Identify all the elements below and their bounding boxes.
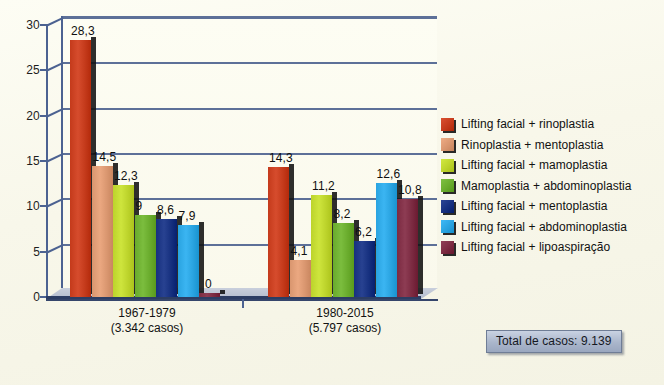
category-name: 1980-2015	[275, 306, 415, 321]
bar	[354, 241, 375, 297]
bar	[135, 215, 156, 297]
category-cases: (3.342 casos)	[77, 321, 217, 336]
category-cases: (5.797 casos)	[275, 321, 415, 336]
legend-item: Lifting facial + lipoaspiração	[441, 237, 663, 258]
legend-item: Mamoplastia + abdominoplastia	[441, 176, 663, 197]
bar-face	[70, 40, 91, 297]
bar-value-label: 0	[205, 277, 212, 291]
bar-face	[376, 183, 397, 297]
bar	[92, 166, 113, 297]
bar	[113, 185, 134, 297]
legend-item: Lifting facial + mamoplastia	[441, 155, 663, 176]
category-label: 1980-2015(5.797 casos)	[275, 306, 415, 336]
legend-color-swatch	[441, 118, 454, 131]
bar-face	[268, 167, 289, 297]
legend-color-swatch	[441, 241, 454, 254]
bar	[290, 260, 311, 297]
bar-face	[354, 241, 375, 297]
legend-color-swatch	[441, 138, 454, 151]
bar-value-label: 7,9	[179, 209, 196, 223]
bar-value-label: 9	[136, 199, 143, 213]
category-name: 1967-1979	[77, 306, 217, 321]
bar-value-label: 6,2	[355, 225, 372, 239]
legend-label: Lifting facial + mentoplastia	[461, 199, 608, 213]
bar-face	[397, 199, 418, 297]
legend-color-swatch	[441, 200, 454, 213]
bar-face	[290, 260, 311, 297]
bar	[397, 199, 418, 297]
bar	[70, 40, 91, 297]
legend-label: Lifting facial + rinoplastia	[461, 117, 594, 131]
legend-label: Mamoplastia + abdominoplastia	[461, 179, 632, 193]
total-cases-badge: Total de casos: 9.139	[486, 330, 622, 353]
x-axis-tick	[242, 299, 244, 308]
bar-chart: 051015202530 28,314,512,398,67,9014,34,1…	[0, 0, 664, 385]
bar	[199, 293, 220, 297]
legend-item: Lifting facial + rinoplastia	[441, 114, 663, 135]
bar	[311, 195, 332, 297]
legend-item: Lifting facial + mentoplastia	[441, 196, 663, 217]
bar-value-label: 8,2	[334, 207, 351, 221]
bar-value-label: 4,1	[291, 244, 308, 258]
bar-value-label: 12,6	[377, 167, 401, 181]
bar	[376, 183, 397, 297]
bar-face	[178, 225, 199, 297]
legend-color-swatch	[441, 159, 454, 172]
legend-color-swatch	[441, 220, 454, 233]
bar-value-label: 10,8	[398, 183, 422, 197]
bar	[156, 219, 177, 297]
category-label: 1967-1979(3.342 casos)	[77, 306, 217, 336]
bar-face	[333, 223, 354, 297]
bar-value-label: 14,3	[269, 151, 293, 165]
bar-value-label: 14,5	[93, 150, 117, 164]
legend-color-swatch	[441, 179, 454, 192]
legend-label: Lifting facial + abdominoplastia	[461, 220, 627, 234]
legend-label: Lifting facial + mamoplastia	[461, 158, 607, 172]
bar	[333, 223, 354, 297]
bar-face	[113, 185, 134, 297]
bar	[268, 167, 289, 297]
legend-label: Lifting facial + lipoaspiração	[461, 240, 610, 254]
bar-side-shadow	[220, 290, 225, 294]
bar-side-shadow	[199, 222, 204, 294]
bar-side-shadow	[418, 196, 423, 294]
bar-value-label: 11,2	[312, 179, 335, 193]
legend-item: Rinoplastia + mentoplastia	[441, 135, 663, 156]
bar-face	[156, 219, 177, 297]
bar-face	[311, 195, 332, 297]
bar-value-label: 28,3	[71, 24, 95, 38]
legend-item: Lifting facial + abdominoplastia	[441, 217, 663, 238]
bar-value-label: 12,3	[114, 169, 138, 183]
bar-face	[135, 215, 156, 297]
legend-label: Rinoplastia + mentoplastia	[461, 138, 603, 152]
chart-legend: Lifting facial + rinoplastiaRinoplastia …	[441, 114, 663, 258]
bar-face	[199, 293, 220, 297]
bar	[178, 225, 199, 297]
bar-value-label: 8,6	[157, 203, 174, 217]
bar-face	[92, 166, 113, 297]
